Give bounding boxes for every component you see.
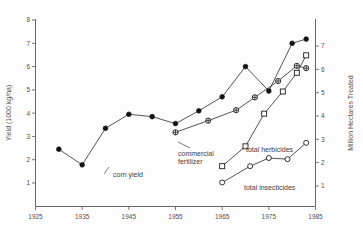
x-tick-label: 1925 — [28, 213, 43, 220]
x-axis-ticks: 1925193519451955196519751985 — [28, 207, 323, 220]
left-tick-label: 4 — [26, 110, 30, 117]
x-tick-label: 1955 — [168, 213, 183, 220]
left-tick-label: 8 — [26, 16, 30, 23]
data-point-filled-circle — [173, 121, 178, 126]
right-axis-ticks: 1234567 — [316, 42, 326, 189]
bottom-axis: 1925193519451955196519751985 — [28, 207, 323, 220]
y2-axis-title: Million Hectares Treated — [347, 75, 354, 151]
data-point-filled-circle — [304, 37, 309, 42]
left-tick-label: 6 — [26, 63, 30, 70]
data-point-open-square — [294, 70, 299, 75]
left-tick-label: 7 — [26, 40, 30, 47]
commercial-fertilizer-leader — [178, 142, 190, 148]
x-tick-label: 1945 — [122, 213, 137, 220]
chart-container: 12345678 1234567 19251935194519551965197… — [0, 0, 363, 248]
right-axis: 1234567 — [316, 19, 326, 206]
commercial-fertilizer-label-l2: fertilizer — [178, 158, 203, 165]
data-point-filled-circle — [290, 41, 295, 46]
corn-yield-label: corn yield — [113, 171, 143, 179]
data-point-filled-circle — [266, 89, 271, 94]
data-point-filled-circle — [150, 114, 155, 119]
right-tick-label: 2 — [321, 159, 325, 166]
data-point-open-circle — [285, 157, 290, 162]
data-point-open-circle — [266, 156, 271, 161]
data-point-filled-circle — [196, 108, 201, 113]
data-point-open-circle — [220, 180, 225, 185]
left-tick-label: 2 — [26, 156, 30, 163]
data-point-filled-circle — [126, 112, 131, 117]
total-insecticides-label: total insecticides — [244, 184, 296, 191]
total-herbicides-label: total herbicides — [246, 146, 294, 153]
left-axis-ticks: 12345678 — [26, 16, 35, 186]
left-axis: 12345678 — [26, 16, 35, 206]
data-point-filled-circle — [80, 162, 85, 167]
corn-yield-leader — [104, 167, 109, 174]
data-point-filled-circle — [56, 147, 61, 152]
x-tick-label: 1935 — [75, 213, 90, 220]
left-tick-label: 5 — [26, 86, 30, 93]
data-point-open-circle — [248, 164, 253, 169]
left-tick-label: 3 — [26, 133, 30, 140]
series-line — [176, 66, 307, 133]
line-chart: 12345678 1234567 19251935194519551965197… — [0, 0, 363, 248]
data-point-open-square — [220, 164, 225, 169]
annotation-layer: corn yield commercial fertilizer total h… — [104, 142, 296, 191]
data-point-open-square — [280, 89, 285, 94]
y-axis-title: Yield (1000 kg/ha) — [5, 85, 13, 142]
right-tick-label: 6 — [321, 66, 325, 73]
right-tick-label: 4 — [321, 112, 325, 119]
x-tick-label: 1985 — [308, 213, 323, 220]
data-point-filled-circle — [220, 94, 225, 99]
commercial-fertilizer-label-l1: commercial — [178, 150, 214, 157]
data-point-open-circle — [304, 140, 309, 145]
data-point-filled-circle — [103, 126, 108, 131]
data-point-open-square — [262, 111, 267, 116]
right-tick-label: 7 — [321, 42, 325, 49]
data-point-open-square — [304, 53, 309, 58]
x-tick-label: 1975 — [262, 213, 277, 220]
series-commercial-fertilizer — [173, 63, 309, 135]
right-tick-label: 3 — [321, 136, 325, 143]
right-tick-label: 5 — [321, 89, 325, 96]
right-tick-label: 1 — [321, 182, 325, 189]
x-tick-label: 1965 — [215, 213, 230, 220]
left-tick-label: 1 — [26, 179, 30, 186]
data-point-filled-circle — [243, 64, 248, 69]
